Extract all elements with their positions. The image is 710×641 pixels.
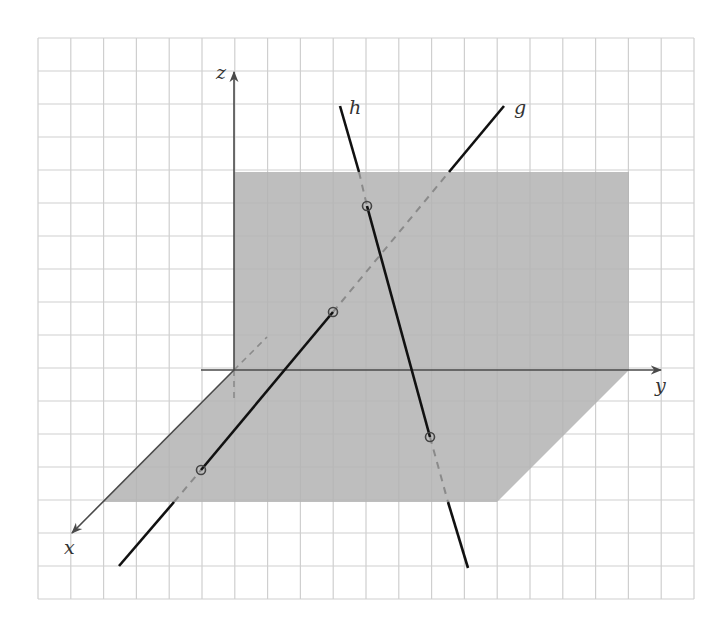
line-label-g: g <box>514 96 526 118</box>
axis-label-z: z <box>215 61 227 83</box>
diagram-canvas: z y x g h <box>0 0 710 641</box>
yz-plane <box>234 172 629 370</box>
line-g-segment <box>449 106 504 172</box>
axis-label-x: x <box>64 536 75 558</box>
line-g-segment <box>119 502 174 566</box>
xy-plane <box>103 370 629 502</box>
axis-label-y: y <box>654 374 666 396</box>
line-label-h: h <box>349 96 361 118</box>
coordinate-planes <box>103 172 629 502</box>
